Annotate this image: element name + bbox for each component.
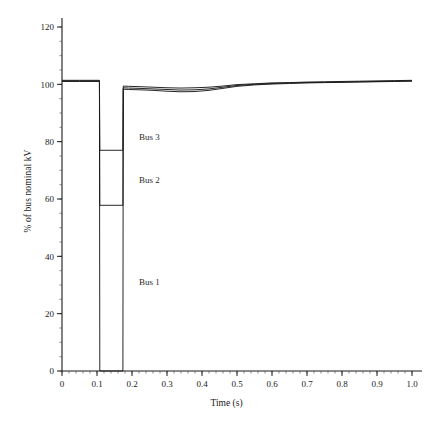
x-axis-tick-label: 0.5 [231,379,243,389]
voltage-vs-time-chart: 02040608010012000.10.20.30.40.50.60.70.8… [0,0,435,424]
x-axis-tick-label: 0.6 [266,379,278,389]
x-axis-tick-label: 1.0 [406,379,418,389]
series-line-bus-1 [62,81,412,371]
y-axis-tick-label: 80 [45,137,55,147]
series-line-bus-2 [62,81,412,205]
annotation-bus-2: Bus 2 [139,175,160,185]
x-axis-label-text: Time (s) [210,398,242,408]
y-axis-tick-label: 100 [41,80,55,90]
y-axis-tick-label: 20 [45,309,55,319]
x-axis-tick-label: 0.4 [196,379,208,389]
y-axis-label: % of bus nominal kV [23,111,33,271]
series-line-bus-3 [62,80,412,150]
y-axis-tick-label: 120 [41,22,55,32]
x-axis-tick-label: 0.2 [126,379,137,389]
plot-canvas: 02040608010012000.10.20.30.40.50.60.70.8… [0,0,435,424]
x-axis-tick-label: 0.9 [371,379,383,389]
x-axis-tick-label: 0.3 [161,379,173,389]
x-axis-tick-label: 0.1 [91,379,102,389]
y-axis-tick-label: 40 [45,252,55,262]
x-axis-tick-label: 0.7 [301,379,313,389]
annotation-bus-3: Bus 3 [139,132,160,142]
x-axis-tick-label: 0 [60,379,65,389]
figure-container: 02040608010012000.10.20.30.40.50.60.70.8… [0,0,435,424]
annotation-bus-1: Bus 1 [139,277,160,287]
y-axis-tick-label: 60 [45,194,55,204]
x-axis-label: Time (s) [0,398,435,408]
x-axis-tick-label: 0.8 [336,379,348,389]
y-axis-tick-label: 0 [50,366,55,376]
